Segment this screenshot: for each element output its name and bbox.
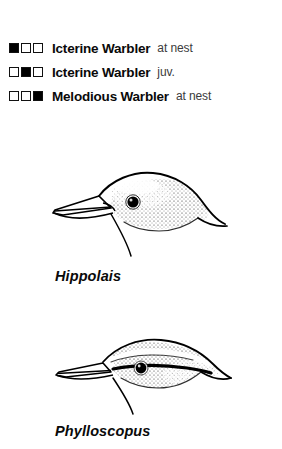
bird-head-icon — [41, 322, 241, 417]
legend-row: Icterine Warbler at nest — [0, 36, 282, 60]
legend-species-qualifier: at nest — [157, 41, 192, 55]
legend-species-qualifier: juv. — [157, 65, 174, 79]
legend-swatch-filled — [21, 67, 31, 77]
legend-swatch-group — [9, 43, 43, 53]
legend-swatch-empty — [9, 67, 19, 77]
legend-swatch-empty — [21, 43, 31, 53]
map-symbol-legend: Icterine Warbler at nest Icterine Warble… — [0, 36, 282, 108]
legend-species-name: Icterine Warbler — [52, 65, 150, 80]
illustration-phylloscopus: Phylloscopus — [0, 322, 282, 439]
legend-species-name: Icterine Warbler — [52, 41, 150, 56]
legend-swatch-group — [9, 67, 43, 77]
legend-swatch-empty — [21, 91, 31, 101]
genus-label-phylloscopus: Phylloscopus — [0, 417, 282, 439]
legend-swatch-filled — [9, 43, 19, 53]
legend-species-name: Melodious Warbler — [52, 89, 169, 104]
legend-swatch-empty — [9, 91, 19, 101]
legend-swatch-empty — [33, 67, 43, 77]
genus-label-hippolais: Hippolais — [0, 260, 282, 284]
bird-head-icon — [41, 160, 241, 260]
legend-row: Melodious Warbler at nest — [0, 84, 282, 108]
legend-swatch-filled — [33, 91, 43, 101]
legend-swatch-empty — [33, 43, 43, 53]
illustration-hippolais: Hippolais — [0, 160, 282, 284]
legend-row: Icterine Warbler juv. — [0, 60, 282, 84]
legend-species-qualifier: at nest — [176, 89, 211, 103]
legend-swatch-group — [9, 91, 43, 101]
